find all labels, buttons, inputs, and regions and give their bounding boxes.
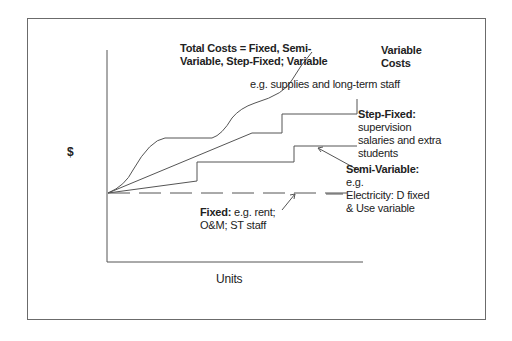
fixed-label-1: Fixed: e.g. rent; (200, 206, 275, 218)
fixed-title: Fixed: (200, 206, 231, 218)
step-fixed-desc-3: students (358, 147, 398, 159)
total-costs-label-1: Total Costs = Fixed, Semi- (180, 42, 311, 54)
total-costs-label-2: Variable, Step-Fixed; Variable (180, 55, 327, 67)
step-fixed-desc-1: supervision (358, 121, 411, 133)
step-fixed-title: Step-Fixed: (358, 108, 416, 120)
variable-costs-title-1: Variable (381, 44, 422, 56)
semi-variable-desc-3: & Use variable (346, 202, 415, 214)
step-fixed-desc-2: salaries and extra (358, 134, 441, 146)
semi-variable-line (108, 146, 357, 193)
semi-variable-desc-1: e.g. (346, 176, 364, 188)
total-cost-curve (108, 52, 312, 193)
y-axis-label: $ (67, 146, 73, 158)
variable-costs-example: e.g. supplies and long-term staff (250, 78, 400, 90)
fixed-desc-2: O&M; ST staff (200, 219, 266, 231)
fixed-desc-1: e.g. rent; (231, 206, 275, 218)
semi-variable-title: Semi-Variable: (346, 163, 419, 175)
semi-variable-desc-2: Electricity: D fixed (346, 189, 429, 201)
step-fixed-line (108, 114, 357, 193)
variable-costs-title-2: Costs (381, 57, 411, 69)
x-axis-label: Units (216, 273, 242, 285)
fixed-arrow (282, 194, 295, 210)
